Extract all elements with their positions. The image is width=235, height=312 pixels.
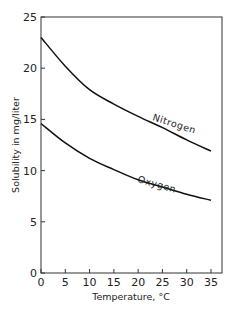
y-axis-ticks: 0510152025: [23, 11, 45, 280]
solubility-chart: 0510152025 05101520253035 NitrogenOxygen…: [0, 0, 235, 312]
x-tick-label: 15: [107, 276, 121, 289]
y-tick-label: 0: [30, 267, 37, 280]
y-tick-label: 5: [30, 216, 37, 229]
data-curves: [41, 37, 211, 200]
y-axis-label: Solubility in mg/liter: [10, 97, 21, 193]
series-label-nitrogen: Nitrogen: [151, 111, 197, 135]
x-tick-label: 30: [180, 276, 194, 289]
x-tick-label: 25: [155, 276, 169, 289]
y-tick-label: 10: [23, 165, 37, 178]
x-tick-label: 10: [83, 276, 97, 289]
x-tick-label: 5: [62, 276, 69, 289]
series-label-oxygen: Oxygen: [136, 173, 177, 194]
x-tick-label: 0: [38, 276, 45, 289]
x-axis-ticks: 05101520253035: [38, 269, 219, 289]
y-tick-label: 15: [23, 113, 37, 126]
curve-oxygen: [41, 123, 211, 200]
y-tick-label: 25: [23, 11, 37, 24]
x-axis-label: Temperature, °C: [91, 291, 170, 302]
series-labels: NitrogenOxygen: [136, 111, 197, 194]
x-tick-label: 20: [131, 276, 145, 289]
x-tick-label: 35: [204, 276, 218, 289]
y-tick-label: 20: [23, 62, 37, 75]
curve-nitrogen: [41, 37, 211, 151]
